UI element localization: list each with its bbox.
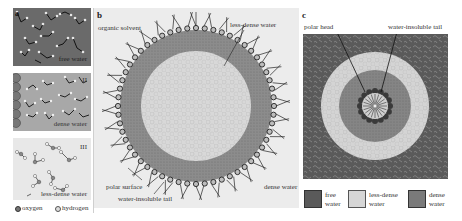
panel-letter-a: a: [15, 9, 19, 18]
legend-less-dense-label-1: less-dense: [369, 192, 398, 199]
legend-hydrogen-label: hydrogen: [62, 205, 88, 212]
panel-letter-c: c: [302, 10, 306, 20]
subpanel-ii-roman: II: [82, 77, 87, 84]
panel-a-legend: oxygen hydrogen: [15, 204, 95, 214]
subpanel-iii-label: less-dense water: [41, 191, 87, 198]
subpanel-dense-water: II dense water: [13, 73, 91, 131]
panel-c: c polar head water-insoluble tail: [300, 8, 462, 221]
polar-surface-beads: [13, 74, 21, 128]
subpanel-i-label: free water: [59, 56, 87, 63]
subpanel-ii-label: dense water: [54, 121, 87, 128]
legend-dense-label-2: water: [429, 201, 445, 208]
subpanel-less-dense-water: III less-dense water: [13, 138, 91, 200]
legend-less-dense-label-2: water: [369, 201, 385, 208]
subpanel-iii-roman: III: [80, 144, 87, 151]
label-polar-head: polar head: [304, 24, 333, 31]
panel-b: b organic solvent less-dense water polar…: [94, 8, 299, 208]
subpanel-free-water: a free water: [13, 8, 91, 66]
leader-tail: [154, 182, 164, 194]
oxygen-dot-icon: [15, 206, 21, 212]
swatch-less-dense-water: [348, 190, 366, 208]
swatch-free-water: [304, 190, 322, 208]
swatch-dense-water: [408, 190, 426, 208]
less-dense-water-core: [141, 51, 251, 161]
legend-free-label-1: free: [325, 192, 336, 199]
panel-c-legend: free water less-dense water dense water: [304, 190, 462, 212]
legend-dense-label-1: dense: [429, 192, 445, 199]
legend-free-label-2: water: [325, 201, 341, 208]
label-water-insoluble-tail-c: water-insoluble tail: [388, 24, 442, 31]
panel-a: a free water: [13, 8, 91, 220]
micelle-water-zones: [303, 34, 453, 184]
legend-oxygen-label: oxygen: [22, 205, 43, 212]
reverse-micelle-cross-section: [94, 8, 299, 208]
leader-polar-surface: [128, 168, 142, 180]
hydrogen-dot-icon: [55, 206, 61, 212]
